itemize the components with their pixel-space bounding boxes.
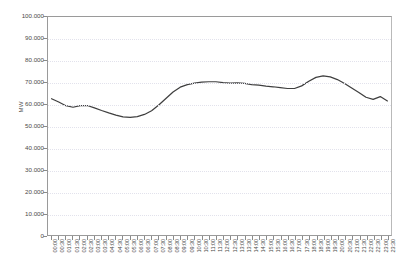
gridline <box>48 61 391 62</box>
y-axis-tick-label: 20.000 <box>8 189 44 195</box>
gridline <box>48 83 391 84</box>
x-axis-tick-label: 08:30 <box>175 239 181 267</box>
x-axis-tick-label: 00:30 <box>60 239 66 267</box>
x-axis-tick-label: 22:30 <box>376 239 382 267</box>
gridline <box>48 215 391 216</box>
y-axis-tick-mark <box>43 104 47 105</box>
x-axis-tick-label: 10:00 <box>197 239 203 267</box>
x-axis-tick-label: 14:30 <box>261 239 267 267</box>
x-axis-tick-label: 04:00 <box>110 239 116 267</box>
x-axis-tick-label: 21:00 <box>355 239 361 267</box>
y-axis-tick-label: 0 <box>8 233 44 239</box>
y-axis-tick-label: 60.000 <box>8 101 44 107</box>
x-axis-tick-label: 19:00 <box>326 239 332 267</box>
x-axis-tick-label: 09:00 <box>182 239 188 267</box>
y-axis-tick-mark <box>43 236 47 237</box>
x-axis-tick-label: 12:00 <box>225 239 231 267</box>
x-axis-tick-label: 12:30 <box>233 239 239 267</box>
x-axis-tick-label: 07:30 <box>161 239 167 267</box>
x-axis-tick-label: 23:30 <box>391 239 397 267</box>
gridline <box>48 127 391 128</box>
x-axis-tick-label: 01:00 <box>67 239 73 267</box>
y-axis-tick-mark <box>43 82 47 83</box>
gridline <box>48 105 391 106</box>
x-axis-tick-label: 16:00 <box>283 239 289 267</box>
gridline <box>48 39 391 40</box>
x-axis-tick-label: 05:30 <box>132 239 138 267</box>
y-axis-tick-label: 70.000 <box>8 79 44 85</box>
x-axis-tick-label: 15:30 <box>276 239 282 267</box>
y-axis-tick-mark <box>43 192 47 193</box>
x-axis-tick-label: 22:00 <box>369 239 375 267</box>
y-axis-tick-label: 10.000 <box>8 211 44 217</box>
x-axis-tick-label: 14:00 <box>254 239 260 267</box>
y-axis-tick-label: 30.000 <box>8 167 44 173</box>
x-axis-tick-label: 17:30 <box>305 239 311 267</box>
x-axis-tick-label: 04:30 <box>118 239 124 267</box>
x-axis-tick-label: 20:30 <box>348 239 354 267</box>
x-axis-tick-label: 18:00 <box>312 239 318 267</box>
x-axis-tick-label: 17:00 <box>297 239 303 267</box>
x-axis-tick-label: 21:30 <box>362 239 368 267</box>
x-axis-tick-label: 18:30 <box>319 239 325 267</box>
x-axis-tick-label: 02:30 <box>89 239 95 267</box>
gridline <box>48 149 391 150</box>
x-axis-tick-label: 06:00 <box>139 239 145 267</box>
x-axis-tick-label: 08:00 <box>168 239 174 267</box>
x-axis-tick-label: 02:00 <box>82 239 88 267</box>
plot-area <box>47 16 392 236</box>
y-axis-tick-labels: 100.00090.00080.00070.00060.00050.00040.… <box>8 0 44 269</box>
gridline <box>48 193 391 194</box>
x-axis-tick-label: 23:00 <box>384 239 390 267</box>
x-axis-tick-label: 20:00 <box>340 239 346 267</box>
y-axis-tick-mark <box>43 170 47 171</box>
x-axis-tick-label: 11:00 <box>211 239 217 267</box>
y-axis-tick-label: 50.000 <box>8 123 44 129</box>
y-axis-tick-mark <box>43 60 47 61</box>
y-axis-tick-mark <box>43 148 47 149</box>
x-axis-tick-label: 01:30 <box>75 239 81 267</box>
y-axis-tick-mark <box>43 214 47 215</box>
x-axis-tick-label: 06:30 <box>146 239 152 267</box>
x-axis-tick-label: 10:30 <box>204 239 210 267</box>
x-axis-tick-label: 13:00 <box>240 239 246 267</box>
x-axis-tick-label: 07:00 <box>154 239 160 267</box>
y-axis-tick-label: 80.000 <box>8 57 44 63</box>
x-axis-tick-label: 15:00 <box>269 239 275 267</box>
y-axis-tick-mark <box>43 38 47 39</box>
y-axis-tick-mark <box>43 16 47 17</box>
gridline <box>48 171 391 172</box>
x-axis-tick-label: 09:30 <box>190 239 196 267</box>
y-axis-tick-label: 40.000 <box>8 145 44 151</box>
y-axis-tick-label: 100.000 <box>8 13 44 19</box>
y-axis-tick-mark <box>43 126 47 127</box>
y-axis-tick-label: 90.000 <box>8 35 44 41</box>
data-line-svg <box>48 17 391 235</box>
x-axis-tick-label: 16:30 <box>290 239 296 267</box>
x-axis-tick-label: 05:00 <box>125 239 131 267</box>
x-axis-tick-label: 13:30 <box>247 239 253 267</box>
load-profile-chart: MW 100.00090.00080.00070.00060.00050.000… <box>0 0 404 269</box>
x-axis-tick-label: 03:00 <box>96 239 102 267</box>
x-axis-tick-label: 00:00 <box>53 239 59 267</box>
x-axis-tick-labels: 00:0000:3001:0001:3002:0002:3003:0003:30… <box>47 240 392 269</box>
